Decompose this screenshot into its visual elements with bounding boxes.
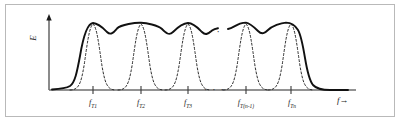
x-axis-label: f→	[337, 95, 348, 105]
axis-ellipsis: · · ·	[204, 84, 225, 95]
figure-root: E f→ fT1 fT2 fT3 fT(n-1) fTn · · · · · ·	[0, 0, 408, 124]
channel-response-curves	[70, 24, 314, 90]
tick-label-sub: T2	[139, 103, 145, 109]
x-axis-arrow-glyph: →	[340, 95, 348, 105]
tick-label-sub: T1	[91, 103, 97, 109]
y-axis-arrowhead	[46, 14, 51, 21]
envelope-right-segment	[228, 23, 348, 90]
tick-label: fT3	[174, 98, 202, 109]
tick-label: fT1	[79, 98, 107, 109]
tick-label-sub: T3	[186, 103, 192, 109]
tick-label: fTn	[277, 98, 307, 109]
plot-canvas	[0, 0, 408, 124]
y-axis-label: E	[28, 35, 38, 41]
tick-label: fT(n-1)	[227, 98, 265, 109]
tick-label-sub: T(n-1)	[240, 103, 254, 109]
envelope-left-segment	[52, 23, 218, 90]
channel-curve-2	[118, 24, 164, 90]
tick-label: fT2	[127, 98, 155, 109]
curve-ellipsis: · · ·	[200, 26, 221, 37]
tick-label-sub: Tn	[290, 103, 296, 109]
channel-curve-n	[268, 24, 314, 90]
